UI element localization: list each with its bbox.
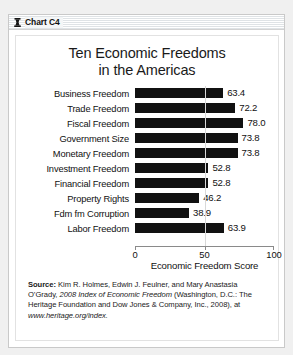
bar-row: Investment Freedom52.8	[16, 161, 278, 176]
bar-value-label: 63.9	[228, 222, 246, 233]
bar	[135, 193, 199, 203]
chart-title: Ten Economic Freedoms in the Americas	[16, 45, 278, 79]
bar-row: Fdm fm Corruption38.9	[16, 206, 278, 221]
window-titlebar[interactable]: Chart C4	[9, 15, 284, 30]
bar-track: 73.8	[135, 131, 278, 146]
x-axis-tick-label: 0	[132, 249, 137, 260]
bar	[135, 88, 223, 98]
screenshot-root: Chart C4 Ten Economic Freedoms in the Am…	[0, 0, 293, 355]
chart-window-icon	[12, 17, 23, 28]
x-axis-title: Economic Freedom Score	[135, 260, 274, 271]
bar-row: Financial Freedom52.8	[16, 176, 278, 191]
bar-row: Labor Freedom63.9	[16, 221, 278, 236]
bar-value-label: 78.0	[247, 117, 265, 128]
bar	[135, 223, 224, 233]
bar-row: Trade Freedom72.2	[16, 101, 278, 116]
source-label: Source:	[28, 280, 56, 289]
bar-category-label: Monetary Freedom	[16, 149, 135, 159]
bar-category-label: Government Size	[16, 134, 135, 144]
x-axis-tick-label: 100	[266, 249, 282, 260]
bar-value-label: 52.8	[212, 162, 230, 173]
bar-track: 73.8	[135, 146, 278, 161]
bar-category-label: Labor Freedom	[16, 224, 135, 234]
bar	[135, 103, 235, 113]
bar-category-label: Fiscal Freedom	[16, 119, 135, 129]
x-axis-tick-labels: 050100	[135, 247, 274, 261]
bar-row: Fiscal Freedom78.0	[16, 116, 278, 131]
bar-category-label: Business Freedom	[16, 89, 135, 99]
source-url: www.heritage.org/index.	[28, 311, 108, 320]
window-title: Chart C4	[25, 17, 63, 28]
bar-category-label: Fdm fm Corruption	[16, 209, 135, 219]
bar-track: 63.4	[135, 86, 278, 101]
bar-value-label: 52.8	[212, 177, 230, 188]
bar-track: 78.0	[135, 116, 278, 131]
bar-value-label: 72.2	[239, 102, 257, 113]
bar-chart-plot: Business Freedom63.4Trade Freedom72.2Fis…	[16, 86, 278, 246]
bar-category-label: Trade Freedom	[16, 104, 135, 114]
bar-value-label: 73.8	[242, 132, 260, 143]
bar-track: 52.8	[135, 161, 278, 176]
bar-value-label: 73.8	[242, 147, 260, 158]
bar-category-label: Investment Freedom	[16, 164, 135, 174]
chart-panel: Ten Economic Freedoms in the Americas Bu…	[15, 35, 279, 341]
bar-value-label: 46.2	[203, 192, 221, 203]
bar-value-label: 63.4	[227, 87, 245, 98]
bar	[135, 148, 238, 158]
bar-value-label: 38.9	[193, 207, 211, 218]
x-axis-gridline	[205, 86, 206, 246]
bar-track: 72.2	[135, 101, 278, 116]
chart-title-line-1: Ten Economic Freedoms	[16, 45, 278, 62]
chart-window: Chart C4 Ten Economic Freedoms in the Am…	[8, 14, 285, 348]
bar-track: 63.9	[135, 221, 278, 236]
source-note: Source: Kim R. Holmes, Edwin J. Feulner,…	[28, 280, 266, 321]
bar-track: 52.8	[135, 176, 278, 191]
bar	[135, 133, 238, 143]
bar	[135, 208, 189, 218]
bar	[135, 178, 208, 188]
bar-row: Government Size73.8	[16, 131, 278, 146]
chart-title-line-2: in the Americas	[16, 62, 278, 79]
bar-row: Business Freedom63.4	[16, 86, 278, 101]
bar	[135, 163, 208, 173]
source-italic-title: 2008 Index of Economic Freedom	[59, 290, 171, 299]
bar-track: 46.2	[135, 191, 278, 206]
bar-category-label: Property Rights	[16, 194, 135, 204]
bar-track: 38.9	[135, 206, 278, 221]
bar	[135, 118, 243, 128]
bar-row: Monetary Freedom73.8	[16, 146, 278, 161]
bar-category-label: Financial Freedom	[16, 179, 135, 189]
x-axis-tick-label: 50	[199, 249, 209, 260]
bar-row: Property Rights46.2	[16, 191, 278, 206]
